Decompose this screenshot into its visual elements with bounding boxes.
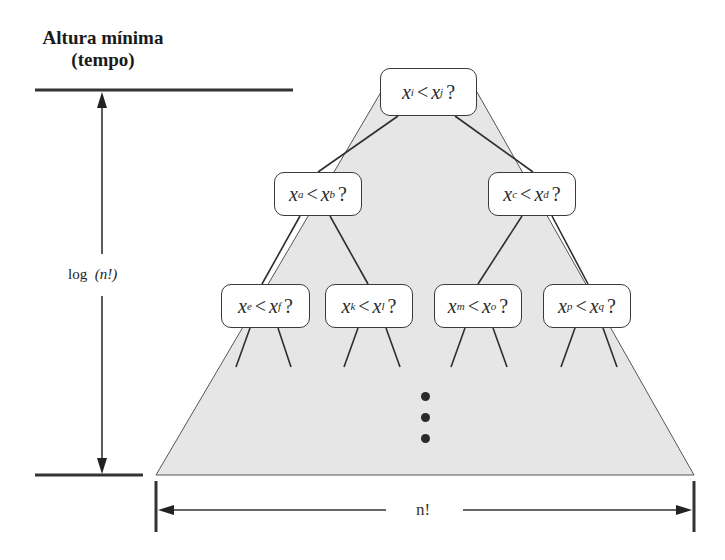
tree-node-root: xi < xj ? [380,68,477,116]
tree-node-level2-3: xm < xo ? [434,284,522,328]
tree-node-level2-2: xk < xl ? [325,284,413,328]
width-label: n! [416,500,430,520]
tree-node-level1-left: xa < xb ? [274,172,362,216]
tree-node-level2-4: xp < xq ? [543,284,631,328]
height-label-func: log [68,266,87,282]
tree-node-level1-right: xc < xd ? [488,172,576,216]
title-line-1: Altura mínima [28,27,178,49]
height-label: log (n!) [64,264,121,285]
title-line-2: (tempo) [28,49,178,71]
decision-tree-diagram: Altura mínima (tempo) log (n!) n! xi < x… [0,0,725,560]
height-label-arg: (n!) [95,266,118,282]
tree-node-level2-1: xe < xf ? [221,284,310,328]
min-height-title: Altura mínima (tempo) [28,27,178,71]
